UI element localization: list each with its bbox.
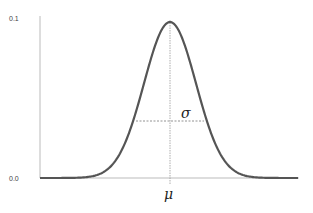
bell-curve xyxy=(40,22,298,178)
y-tick-top: 0.1 xyxy=(9,15,19,22)
y-tick-bottom: 0.0 xyxy=(9,175,19,182)
normal-distribution-chart: 0.1 0.0 σ μ xyxy=(0,0,313,213)
mu-label: μ xyxy=(164,186,173,202)
sigma-label: σ xyxy=(181,105,191,121)
